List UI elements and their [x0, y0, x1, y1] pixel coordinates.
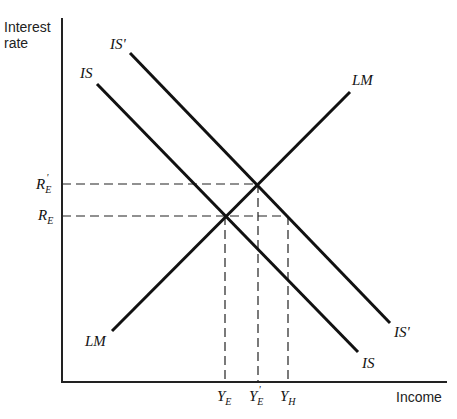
- is-prime-curve-label-bottom: IS': [393, 324, 410, 340]
- yh-tick-label: YH: [280, 388, 296, 407]
- is-prime-curve-label-top: IS': [109, 36, 126, 52]
- is-prime-curve: [130, 53, 390, 323]
- y-axis-label-line2: rate: [4, 35, 28, 51]
- is-curve-label-bottom: IS: [361, 355, 375, 371]
- x-axis-label: Income: [396, 389, 442, 405]
- ye-prime-tick-label: YE': [249, 384, 263, 407]
- re-tick-label: RE: [37, 207, 53, 226]
- lm-curve-label-bottom: LM: [84, 333, 107, 349]
- ye-tick-label: YE: [217, 388, 231, 407]
- y-axis-label-line1: Interest: [4, 19, 51, 35]
- lm-curve-label-top: LM: [351, 72, 374, 88]
- is-curve-label-top: IS: [79, 65, 93, 81]
- re-prime-tick-label: RE': [35, 172, 51, 195]
- lm-curve: [112, 92, 350, 331]
- is-lm-diagram: Interest rate Income IS IS' LM LM IS IS'…: [0, 0, 457, 419]
